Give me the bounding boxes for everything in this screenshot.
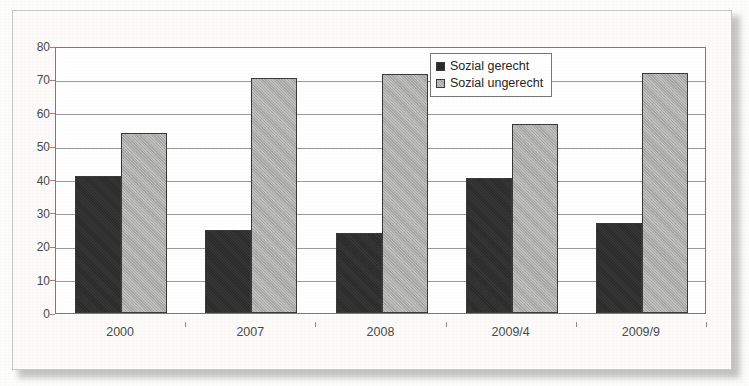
x-tick-label: 2008: [315, 326, 445, 339]
bar-sozial-ungerecht-2000: [121, 133, 167, 313]
bar-sozial-ungerecht-2009-9: [642, 73, 688, 313]
y-tick-mark: [50, 314, 55, 315]
y-tick-label: 30: [16, 208, 50, 220]
x-tick-label: 2009/9: [576, 326, 706, 339]
plot-area: [55, 47, 706, 314]
bar-sozial-gerecht-2008: [336, 233, 382, 313]
y-tick-mark: [50, 180, 55, 181]
x-tick-label: 2000: [55, 326, 185, 339]
y-tick-mark: [50, 213, 55, 214]
scanned-page: 01020304050607080 2000200720082009/42009…: [0, 0, 749, 386]
y-axis: 01020304050607080: [12, 47, 50, 314]
legend-swatch-icon: [436, 79, 445, 88]
legend-item-label: Sozial gerecht: [450, 60, 529, 73]
y-tick-mark: [50, 80, 55, 81]
y-tick-label: 60: [16, 108, 50, 120]
y-tick-label: 10: [16, 275, 50, 287]
chart-legend: Sozial gerecht Sozial ungerecht: [430, 53, 552, 97]
x-tick-label: 2009/4: [446, 326, 576, 339]
y-tick-label: 0: [16, 308, 50, 320]
y-tick-mark: [50, 47, 55, 48]
bar-chart: 01020304050607080 2000200720082009/42009…: [12, 10, 730, 368]
y-tick-mark: [50, 113, 55, 114]
y-tick-mark: [50, 147, 55, 148]
legend-swatch-icon: [436, 62, 445, 71]
x-axis: 2000200720082009/42009/9: [55, 322, 706, 344]
legend-item-label: Sozial ungerecht: [450, 77, 543, 90]
y-tick-mark: [50, 280, 55, 281]
y-tick-label: 70: [16, 74, 50, 86]
bar-sozial-gerecht-2009-4: [466, 178, 512, 313]
bar-sozial-gerecht-2000: [75, 176, 121, 313]
x-tick-mark: [706, 322, 707, 327]
y-tick-mark: [50, 247, 55, 248]
bar-sozial-ungerecht-2007: [251, 78, 297, 313]
gridline: [56, 81, 705, 82]
gridline: [56, 114, 705, 115]
x-tick-label: 2007: [185, 326, 315, 339]
bar-sozial-gerecht-2007: [205, 230, 251, 313]
legend-item: Sozial gerecht: [436, 58, 543, 75]
bar-sozial-ungerecht-2009-4: [512, 124, 558, 313]
y-tick-label: 50: [16, 141, 50, 153]
legend-item: Sozial ungerecht: [436, 75, 543, 92]
y-tick-label: 20: [16, 241, 50, 253]
y-tick-label: 80: [16, 41, 50, 53]
bar-sozial-ungerecht-2008: [382, 74, 428, 313]
bar-sozial-gerecht-2009-9: [596, 223, 642, 313]
y-tick-label: 40: [16, 175, 50, 187]
